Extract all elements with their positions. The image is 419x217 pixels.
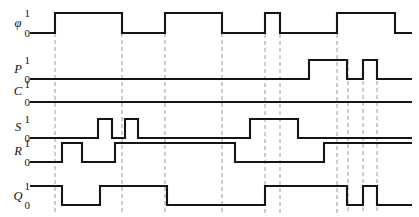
timing-diagram: φ10P10C10S10R10Q10	[0, 0, 419, 217]
level-low-label-clock-phi: 0	[25, 27, 31, 39]
level-high-label-set-s: 1	[25, 113, 31, 125]
level-high-label-clock-phi: 1	[25, 7, 31, 19]
diagram-background	[0, 0, 419, 217]
level-low-label-clear-c: 0	[25, 96, 31, 108]
signal-label-clear-c: C	[14, 84, 23, 98]
level-low-label-output-q: 0	[25, 199, 31, 211]
signal-label-output-q: Q	[13, 189, 22, 203]
signal-label-reset-r: R	[13, 144, 22, 158]
timing-diagram-canvas: φ10P10C10S10R10Q10	[0, 0, 419, 217]
signal-label-preset-p: P	[13, 62, 22, 76]
level-high-label-clear-c: 1	[25, 78, 31, 90]
level-high-label-preset-p: 1	[25, 54, 31, 66]
level-high-label-reset-r: 1	[25, 137, 31, 149]
level-high-label-output-q: 1	[25, 180, 31, 192]
level-low-label-reset-r: 0	[25, 156, 31, 168]
signal-label-set-s: S	[15, 120, 22, 134]
signal-label-clock-phi: φ	[15, 16, 22, 30]
